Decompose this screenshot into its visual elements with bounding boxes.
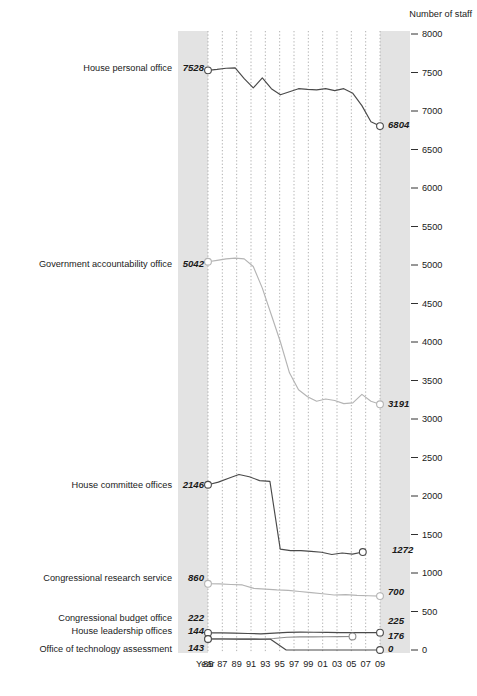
x-tick-label-97: 97 [289, 659, 299, 669]
x-tick-label-03: 03 [332, 659, 342, 669]
series-end-marker-4 [377, 629, 384, 636]
series-end-marker-3 [377, 593, 384, 600]
start-value-6: 143 [188, 642, 205, 653]
x-tick-label-89: 89 [232, 659, 242, 669]
series-label-5: House leadership offices [72, 626, 173, 636]
y-tick-label: 7000 [422, 106, 442, 116]
series-end-marker-6 [377, 647, 384, 654]
series-end-marker-2 [359, 549, 366, 556]
start-value-2: 2146 [182, 479, 205, 490]
series-label-0: House personal office [83, 63, 172, 73]
start-value-band [178, 31, 208, 653]
y-tick-label: 4500 [422, 299, 442, 309]
y-axis-title: Number of staff [409, 9, 472, 19]
end-value-5: 176 [388, 630, 405, 641]
series-start-marker-1 [205, 258, 212, 265]
series-end-marker-0 [377, 123, 384, 130]
start-value-0: 7528 [183, 62, 205, 73]
series-label-3: Congressional research service [43, 573, 172, 583]
x-tick-label-07: 07 [361, 659, 371, 669]
y-tick-label: 7500 [422, 68, 442, 78]
y-tick-label: 500 [422, 607, 437, 617]
y-tick-label: 1500 [422, 530, 442, 540]
series-start-marker-3 [205, 580, 212, 587]
series-start-marker-0 [205, 67, 212, 74]
y-tick-label: 5000 [422, 260, 442, 270]
y-tick-label: 6000 [422, 183, 442, 193]
series-label-2: House committee offices [72, 480, 173, 490]
y-tick-label: 1000 [422, 568, 442, 578]
y-tick-label: 5500 [422, 222, 442, 232]
y-tick-label: 8000 [422, 29, 442, 39]
y-tick-label: 2000 [422, 491, 442, 501]
series-start-marker-6 [205, 636, 212, 643]
series-label-1: Government accountability office [39, 259, 172, 269]
x-tick-label-91: 91 [246, 659, 256, 669]
x-tick-label-87: 87 [217, 659, 227, 669]
start-value-5: 144 [188, 625, 205, 636]
end-value-1: 3191 [388, 398, 409, 409]
y-tick-label: 2500 [422, 453, 442, 463]
start-value-3: 860 [188, 572, 205, 583]
end-value-0: 6804 [388, 119, 410, 130]
y-tick-label: 3500 [422, 376, 442, 386]
y-tick-label: 3000 [422, 414, 442, 424]
x-tick-label-09: 09 [375, 659, 385, 669]
end-value-2: 1272 [392, 544, 414, 555]
series-end-marker-1 [377, 401, 384, 408]
slope-line-chart: 8000750070006500600055005000450040003500… [0, 0, 477, 696]
start-value-1: 5042 [183, 258, 205, 269]
x-tick-label-93: 93 [260, 659, 270, 669]
series-start-marker-2 [205, 481, 212, 488]
y-tick-label: 4000 [422, 337, 442, 347]
start-value-4: 222 [187, 612, 205, 623]
x-tick-label-05: 05 [346, 659, 356, 669]
series-label-6: Office of technology assessment [39, 644, 172, 654]
y-tick-label: 0 [422, 645, 427, 655]
x-tick-label-01: 01 [318, 659, 328, 669]
x-tick-label-95: 95 [275, 659, 285, 669]
x-axis-title: Year [196, 659, 215, 669]
x-tick-label-99: 99 [303, 659, 313, 669]
end-value-6: 0 [388, 643, 394, 654]
end-value-4: 225 [387, 615, 405, 626]
series-label-4: Congressional budget office [58, 613, 172, 623]
end-value-3: 700 [388, 586, 405, 597]
y-tick-label: 6500 [422, 145, 442, 155]
series-end-marker-5 [349, 633, 356, 640]
